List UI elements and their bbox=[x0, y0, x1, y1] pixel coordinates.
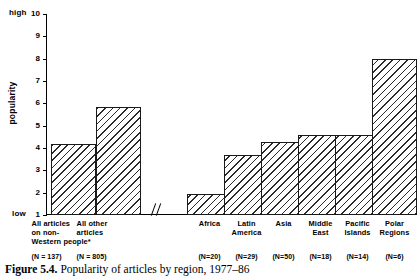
axis-break-icon bbox=[150, 203, 166, 217]
plot-area bbox=[47, 14, 410, 215]
figure-caption: Figure 5.4. Popularity of articles by re… bbox=[5, 263, 249, 275]
y-tick-label-2: 2 bbox=[10, 188, 40, 197]
bar bbox=[51, 144, 96, 215]
category-label-line: articles bbox=[77, 228, 157, 237]
y-tick-label-4: 4 bbox=[10, 143, 40, 152]
y-tick-label-1: 1 bbox=[10, 210, 40, 219]
y-tick-label-3: 3 bbox=[10, 165, 40, 174]
y-tick-label-6: 6 bbox=[10, 98, 40, 107]
sample-size-label: (N=6) bbox=[355, 252, 419, 261]
bar bbox=[372, 59, 417, 215]
category-label-line: Regions bbox=[355, 228, 419, 237]
y-tick-label-10: 10 bbox=[10, 9, 40, 18]
y-tick-label-8: 8 bbox=[10, 54, 40, 63]
y-tick-label-5: 5 bbox=[10, 121, 40, 130]
category-label-line: Polar bbox=[355, 219, 419, 228]
category-label-line: All other bbox=[77, 219, 157, 228]
category-label: All otherarticles(N = 805) bbox=[77, 219, 157, 261]
y-tick-label-7: 7 bbox=[10, 76, 40, 85]
figure-container: high low popularity 10987654321 All arti… bbox=[0, 0, 419, 279]
caption-label: Figure 5.4. bbox=[5, 263, 58, 275]
caption-text: Popularity of articles by region, 1977–8… bbox=[60, 263, 249, 275]
bar bbox=[96, 107, 141, 215]
y-tick-label-9: 9 bbox=[10, 31, 40, 40]
category-label: PolarRegions(N=6) bbox=[355, 219, 419, 261]
sample-size-label: (N = 805) bbox=[77, 252, 157, 261]
